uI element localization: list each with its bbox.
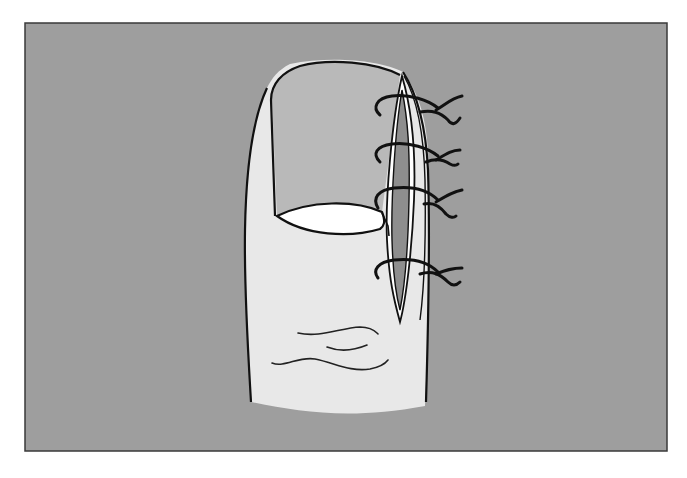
finger-suture-illustration: [0, 0, 687, 478]
illustration-canvas: [0, 0, 687, 478]
